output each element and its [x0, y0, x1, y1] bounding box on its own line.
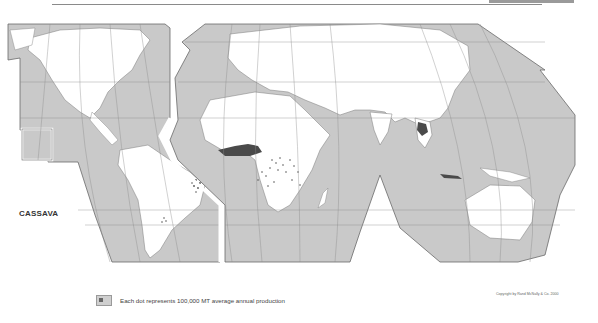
map-title: CASSAVA: [19, 209, 58, 218]
map-legend: Each dot represents 100,000 MT average a…: [96, 295, 285, 306]
legend-text: Each dot represents 100,000 MT average a…: [120, 297, 285, 304]
copyright-notice: Copyright by Rand McNally & Co. 2000: [496, 292, 559, 296]
world-map: [0, 0, 598, 323]
legend-dot-swatch-icon: [96, 295, 112, 306]
africa-eurasia-lobe: [160, 24, 575, 262]
